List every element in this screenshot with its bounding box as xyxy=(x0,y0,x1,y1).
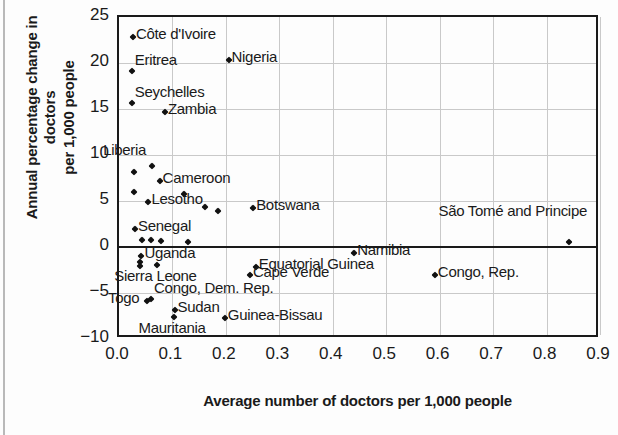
x-gridline xyxy=(386,17,387,335)
x-axis-tick-label: 0.6 xyxy=(408,344,468,364)
data-point-marker xyxy=(130,168,137,175)
x-gridline xyxy=(333,17,334,335)
x-axis-tick-label: 0.8 xyxy=(515,344,575,364)
x-axis-tick-label: 0.7 xyxy=(461,344,521,364)
data-point-marker xyxy=(128,68,135,75)
y-gridline xyxy=(119,155,596,156)
data-point-label: Botswana xyxy=(256,197,319,213)
data-point-marker xyxy=(149,162,156,169)
data-point-label: Togo xyxy=(0,290,139,306)
x-gridline xyxy=(600,17,601,335)
data-point-marker xyxy=(131,188,138,195)
y-axis-title-line-1: Annual percentage change in doctors xyxy=(23,16,58,220)
data-point-marker xyxy=(138,236,145,243)
y-axis-tick-label: 5 xyxy=(49,190,109,207)
data-point-label: Zambia xyxy=(168,101,216,117)
x-axis-tick-label: 0.9 xyxy=(568,344,618,364)
data-point-label: Congo, Dem. Rep. xyxy=(154,280,273,296)
y-axis-tick-label: 0 xyxy=(49,236,109,253)
x-axis-tick-label: 0.2 xyxy=(194,344,254,364)
data-point-label: Guinea-Bissau xyxy=(228,307,323,323)
data-point-label: Seychelles xyxy=(135,84,205,100)
y-axis-tick-label: 20 xyxy=(49,52,109,69)
data-point-label: Côte d'Ivoire xyxy=(136,26,216,42)
x-gridline xyxy=(547,17,548,335)
data-point-label: Nigeria xyxy=(232,49,277,65)
data-point-label: Uganda xyxy=(144,245,195,261)
data-point-label: Senegal xyxy=(138,218,191,234)
data-point-label: Cape Verde xyxy=(253,264,329,280)
x-axis-tick-label: 0.0 xyxy=(87,344,147,364)
x-axis-tick-label: 0.3 xyxy=(247,344,307,364)
data-point-label: Eritrea xyxy=(135,52,177,68)
y-axis-tick-label: 15 xyxy=(49,98,109,115)
data-point-marker xyxy=(128,100,135,107)
data-point-label: Liberia xyxy=(0,142,146,158)
x-gridline xyxy=(279,17,280,335)
x-axis-tick-label: 0.1 xyxy=(140,344,200,364)
data-point-label: Cameroon xyxy=(163,170,231,186)
x-axis-title: Average number of doctors per 1,000 peop… xyxy=(117,392,598,409)
data-point-label: Lesotho xyxy=(151,191,202,207)
data-point-label: Congo, Rep. xyxy=(438,264,519,280)
y-gridline xyxy=(119,63,596,64)
x-axis-tick-label: 0.4 xyxy=(301,344,361,364)
x-gridline xyxy=(493,17,494,335)
data-point-label: São Tomé and Principe xyxy=(407,202,587,221)
data-point-marker xyxy=(565,239,572,246)
data-point-marker xyxy=(215,208,222,215)
y-axis-tick-label: 25 xyxy=(49,6,109,23)
data-point-marker xyxy=(148,236,155,243)
data-point-label: Sudan xyxy=(178,299,220,315)
chart-figure: Annual percentage change in doctors per … xyxy=(0,0,618,435)
x-gridline xyxy=(440,17,441,335)
x-axis-tick-label: 0.5 xyxy=(354,344,414,364)
page-edge-rule xyxy=(3,0,5,435)
